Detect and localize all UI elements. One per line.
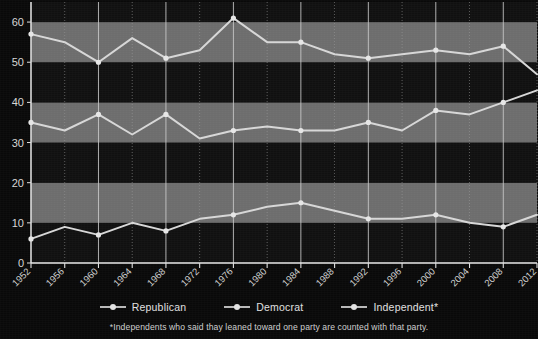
chart-root: 0102030405060195219561960196419681972197… — [0, 0, 538, 339]
data-point-republican-1976[interactable] — [231, 128, 236, 133]
data-point-independent-1992[interactable] — [366, 216, 371, 221]
data-point-republican-2000[interactable] — [433, 108, 438, 113]
legend-item-democrat[interactable]: Democrat — [224, 301, 303, 313]
x-tick-label-1952: 1952 — [10, 266, 33, 289]
background-band-6 — [31, 2, 537, 22]
x-tick-label-2008: 2008 — [482, 266, 505, 289]
data-point-independent-2000[interactable] — [433, 212, 438, 217]
plot-area: 0102030405060195219561960196419681972197… — [0, 0, 538, 339]
x-tick-label-1980: 1980 — [246, 266, 269, 289]
legend-label-independent: Independent* — [373, 301, 438, 313]
x-tick-label-2012: 2012 — [516, 266, 538, 289]
x-tick-label-1988: 1988 — [313, 266, 336, 289]
x-tick-label-1972: 1972 — [178, 266, 201, 289]
data-point-republican-1992[interactable] — [366, 120, 371, 125]
data-point-republican-1960[interactable] — [96, 112, 101, 117]
data-point-democrat-2000[interactable] — [433, 48, 438, 53]
data-point-independent-1960[interactable] — [96, 232, 101, 237]
chart-footnote: *Independents who said thay leaned towar… — [0, 322, 538, 332]
background-band-2 — [31, 143, 537, 183]
data-point-republican-1968[interactable] — [163, 112, 168, 117]
data-point-independent-2008[interactable] — [501, 224, 506, 229]
x-tick-label-2000: 2000 — [414, 266, 437, 289]
data-point-democrat-1952[interactable] — [28, 32, 33, 37]
x-tick-label-1984: 1984 — [280, 266, 303, 289]
data-point-democrat-1976[interactable] — [231, 15, 236, 20]
data-point-independent-1968[interactable] — [163, 228, 168, 233]
x-tick-label-1976: 1976 — [212, 266, 235, 289]
line-dot-marker-icon — [224, 302, 250, 312]
data-point-democrat-1960[interactable] — [96, 60, 101, 65]
y-tick-label-40: 40 — [12, 96, 24, 108]
x-tick-label-1996: 1996 — [381, 266, 404, 289]
line-dot-marker-icon — [341, 302, 367, 312]
legend-item-independent[interactable]: Independent* — [341, 301, 438, 313]
y-tick-label-10: 10 — [12, 217, 24, 229]
x-tick-label-1964: 1964 — [111, 266, 134, 289]
legend-label-democrat: Democrat — [256, 301, 303, 313]
y-tick-label-20: 20 — [12, 177, 24, 189]
x-tick-label-1960: 1960 — [77, 266, 100, 289]
data-point-independent-1984[interactable] — [298, 200, 303, 205]
data-point-democrat-2008[interactable] — [501, 44, 506, 49]
background-band-0 — [31, 223, 537, 263]
data-point-independent-1952[interactable] — [28, 236, 33, 241]
data-point-republican-2008[interactable] — [501, 100, 506, 105]
legend-label-republican: Republican — [132, 301, 187, 313]
background-band-4 — [31, 62, 537, 102]
chart-legend: Republican Democrat Independent* — [0, 296, 538, 318]
line-chart: 0102030405060195219561960196419681972197… — [0, 0, 538, 339]
data-point-republican-1984[interactable] — [298, 128, 303, 133]
legend-item-republican[interactable]: Republican — [100, 301, 187, 313]
x-tick-label-1956: 1956 — [43, 266, 66, 289]
background-band-1 — [31, 183, 537, 223]
data-point-independent-1976[interactable] — [231, 212, 236, 217]
x-tick-label-1992: 1992 — [347, 266, 370, 289]
data-point-republican-1952[interactable] — [28, 120, 33, 125]
y-tick-label-50: 50 — [12, 56, 24, 68]
y-tick-label-30: 30 — [12, 137, 24, 149]
background-band-3 — [31, 102, 537, 142]
y-tick-label-60: 60 — [12, 16, 24, 28]
data-point-democrat-1968[interactable] — [163, 56, 168, 61]
data-point-democrat-1984[interactable] — [298, 40, 303, 45]
x-tick-label-1968: 1968 — [145, 266, 168, 289]
line-dot-marker-icon — [100, 302, 126, 312]
x-tick-label-2004: 2004 — [448, 266, 471, 289]
data-point-democrat-1992[interactable] — [366, 56, 371, 61]
